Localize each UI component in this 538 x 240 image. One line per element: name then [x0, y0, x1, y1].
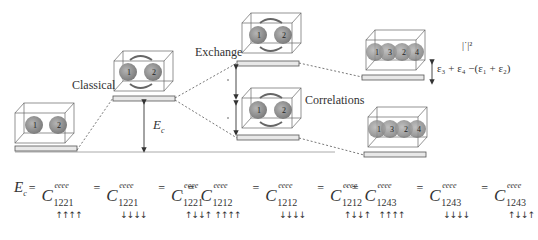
svg-text:4: 4: [417, 125, 421, 134]
level-bar-classical: [113, 96, 175, 101]
level-bar-ground: [15, 146, 77, 151]
term: Ceeee1212↓↓↓↓: [265, 178, 311, 218]
term: Ceeee1243↑↓↓↑: [494, 178, 538, 218]
level-bar-exchange: [237, 61, 299, 66]
label-norm: |˙|²: [462, 40, 472, 51]
label-exchange: Exchange: [195, 45, 242, 60]
svg-text:1: 1: [257, 106, 261, 115]
svg-text:1: 1: [377, 125, 381, 134]
dashed-connectors: [77, 63, 364, 155]
svg-text:2: 2: [57, 121, 61, 130]
svg-text:2: 2: [282, 106, 286, 115]
label-ec: Ec: [153, 117, 165, 135]
level-bar-correlations: [237, 135, 299, 140]
svg-text:2: 2: [282, 31, 286, 40]
term: Ceeee1221↓↓↓↓: [106, 178, 152, 218]
label-energy-diff: ε₃ + ε₄ −(ε₁ + ε₂): [437, 62, 511, 74]
term: Ceeee1243↑↑↑↑: [364, 178, 410, 218]
svg-text:2: 2: [152, 68, 156, 77]
svg-text:1: 1: [375, 48, 379, 57]
svg-text:3: 3: [390, 125, 394, 134]
svg-text:2: 2: [404, 125, 408, 134]
svg-text:1: 1: [257, 31, 261, 40]
svg-text:1: 1: [127, 68, 131, 77]
term: Ceeee1221↑↑↑↑: [42, 178, 88, 218]
label-correlations: Correlations: [305, 93, 364, 108]
level-bar-excited-lower: [364, 152, 426, 157]
term: Ceeee1212↑↑↑↑: [200, 178, 246, 218]
equation-correlations: ˙= Ceeee1243↑↑↑↑ = Ceeee1243↓↓↓↓ = Ceeee…: [343, 178, 538, 218]
svg-text:3: 3: [388, 48, 392, 57]
svg-text:4: 4: [415, 48, 419, 57]
term: Ceeee1243↓↓↓↓: [429, 178, 475, 218]
svg-text:2: 2: [402, 48, 406, 57]
label-classical: Classical: [72, 78, 115, 93]
level-bar-excited-upper: [362, 75, 424, 80]
svg-text:1: 1: [33, 121, 37, 130]
